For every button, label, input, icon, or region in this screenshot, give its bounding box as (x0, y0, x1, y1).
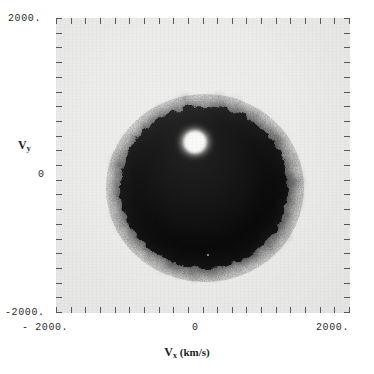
y-axis-tick (344, 268, 350, 269)
x-axis-tick-label-min: - 2000. (22, 322, 68, 333)
y-axis-tick (344, 165, 350, 166)
y-axis-tick (56, 224, 62, 225)
x-axis-title-symbol: V (164, 345, 173, 359)
y-axis-tick (56, 283, 62, 284)
y-axis-tick (344, 121, 350, 122)
y-axis-tick (56, 165, 62, 166)
x-axis-tick (261, 307, 262, 313)
y-axis-tick (344, 297, 350, 298)
y-axis-tick (344, 312, 350, 313)
x-axis-tick (71, 18, 72, 24)
x-axis-tick (115, 18, 116, 24)
density-blob (56, 18, 350, 313)
y-axis-tick (56, 136, 62, 137)
x-axis-tick (203, 307, 204, 313)
x-axis-tick (320, 18, 321, 24)
plot-area (56, 18, 350, 313)
y-axis-tick (56, 297, 62, 298)
x-axis-title: Vx (km/s) (0, 345, 374, 360)
x-axis-tick (276, 307, 277, 313)
y-axis-title-symbol: V (18, 138, 27, 152)
x-axis-tick (188, 307, 189, 313)
y-axis-tick-label-zero: 0 (38, 169, 45, 180)
y-axis-tick-label-min: -2000. (5, 307, 45, 318)
y-axis-tick (56, 121, 62, 122)
y-axis-tick (344, 239, 350, 240)
x-axis-tick (246, 307, 247, 313)
y-axis-tick (56, 253, 62, 254)
velocity-space-figure: 2000. 0 -2000. - 2000. 0 2000. Vy Vx (km… (0, 0, 374, 374)
x-axis-tick (217, 307, 218, 313)
x-axis-tick (232, 18, 233, 24)
x-axis-tick (100, 307, 101, 313)
y-axis-tick (56, 180, 62, 181)
x-axis-tick (305, 18, 306, 24)
y-axis-tick (56, 150, 62, 151)
y-axis-tick-label-max: 2000. (8, 13, 41, 24)
y-axis-tick (56, 18, 62, 19)
x-axis-tick (246, 18, 247, 24)
y-axis-title-subscript: y (27, 144, 31, 153)
x-axis-tick (144, 307, 145, 313)
y-axis-tick (344, 62, 350, 63)
y-axis-tick (344, 77, 350, 78)
x-axis-tick (129, 307, 130, 313)
y-axis-tick (56, 33, 62, 34)
y-axis-tick (344, 47, 350, 48)
x-axis-tick (129, 18, 130, 24)
y-axis-tick (344, 283, 350, 284)
x-axis-tick (217, 18, 218, 24)
y-axis-title: Vy (18, 138, 31, 153)
y-axis-tick (344, 106, 350, 107)
x-axis-title-units: (km/s) (177, 346, 210, 358)
y-axis-tick (56, 239, 62, 240)
y-axis-tick (56, 77, 62, 78)
y-axis-tick (56, 209, 62, 210)
y-axis-tick (344, 92, 350, 93)
x-axis-tick (232, 307, 233, 313)
y-axis-tick (56, 312, 62, 313)
y-axis-tick (344, 180, 350, 181)
y-axis-tick (344, 224, 350, 225)
x-axis-title-subscript: x (173, 351, 177, 360)
x-axis-tick (144, 18, 145, 24)
y-axis-tick (56, 106, 62, 107)
x-axis-tick (261, 18, 262, 24)
y-axis-tick (344, 253, 350, 254)
x-axis-tick (85, 18, 86, 24)
x-axis-tick (290, 307, 291, 313)
x-axis-tick (188, 18, 189, 24)
y-axis-tick (344, 209, 350, 210)
x-axis-tick-label-zero: 0 (192, 322, 199, 333)
x-axis-tick (85, 307, 86, 313)
x-axis-tick (173, 307, 174, 313)
y-axis-tick (344, 194, 350, 195)
x-axis-tick (203, 18, 204, 24)
y-axis-tick (56, 62, 62, 63)
x-axis-tick (159, 307, 160, 313)
x-axis-tick (290, 18, 291, 24)
x-axis-tick (276, 18, 277, 24)
x-axis-tick (115, 307, 116, 313)
x-axis-tick (305, 307, 306, 313)
y-axis-tick (56, 47, 62, 48)
x-axis-tick (334, 18, 335, 24)
y-axis-tick (56, 92, 62, 93)
y-axis-tick (344, 136, 350, 137)
x-axis-tick (159, 18, 160, 24)
x-axis-tick (100, 18, 101, 24)
x-axis-tick (320, 307, 321, 313)
x-axis-tick (173, 18, 174, 24)
x-axis-tick (334, 307, 335, 313)
y-axis-tick (344, 150, 350, 151)
x-axis-tick (71, 307, 72, 313)
y-axis-tick (344, 33, 350, 34)
y-axis-tick (56, 268, 62, 269)
y-axis-tick (56, 194, 62, 195)
x-axis-tick-label-max: 2000. (316, 322, 349, 333)
y-axis-tick (344, 18, 350, 19)
